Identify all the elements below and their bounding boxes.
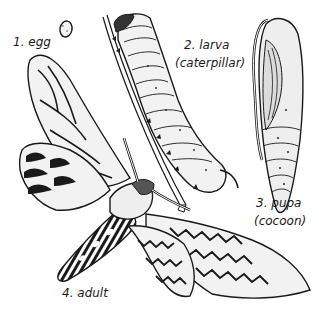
egg-drawing	[59, 20, 74, 38]
pupa-drawing	[254, 19, 303, 213]
stage-name: pupa	[271, 196, 301, 210]
stage-sublabel-pupa: (cocoon)	[254, 214, 306, 228]
stage-name: larva	[199, 38, 229, 52]
stage-sublabel-larva: (caterpillar)	[175, 56, 245, 70]
stage-number: 2.	[184, 38, 195, 52]
stage-number: 1.	[13, 35, 24, 49]
stage-name: adult	[77, 286, 108, 300]
moth-life-cycle-diagram: 1. egg 2. larva (caterpillar) 3. pupa (c…	[0, 0, 319, 313]
stage-label-larva: 2. larva	[184, 38, 229, 52]
stage-name: egg	[28, 35, 51, 49]
stage-label-egg: 1. egg	[13, 35, 51, 49]
stage-number: 4.	[62, 286, 73, 300]
stage-number: 3.	[256, 196, 267, 210]
stage-label-pupa: 3. pupa	[256, 196, 301, 210]
stage-label-adult: 4. adult	[62, 286, 108, 300]
